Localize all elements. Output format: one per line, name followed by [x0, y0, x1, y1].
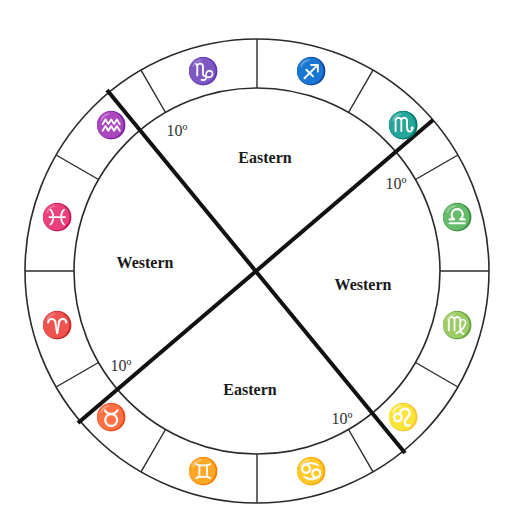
aquarius-icon: ♒ — [95, 110, 127, 140]
region-label-left: Western — [117, 254, 174, 271]
zodiac-diagram: ♐ ♏ ♎ ♍ ♌ ♋ ♊ ♉ ♈ ♓ ♒ ♑ Eastern Eastern … — [0, 0, 508, 521]
sagittarius-icon: ♐ — [295, 56, 327, 86]
degree-label-lower-left: 10º — [111, 357, 132, 374]
gemini-icon: ♊ — [187, 456, 219, 486]
pisces-icon: ♓ — [41, 202, 73, 232]
capricorn-icon: ♑ — [187, 56, 219, 86]
region-label-right: Western — [335, 276, 392, 293]
region-label-top: Eastern — [238, 149, 291, 166]
background — [0, 0, 508, 521]
region-label-bottom: Eastern — [223, 381, 276, 398]
virgo-icon: ♍ — [441, 310, 473, 340]
cancer-icon: ♋ — [295, 456, 327, 486]
degree-label-lower-right: 10º — [332, 410, 353, 427]
libra-icon: ♎ — [441, 202, 473, 232]
degree-label-upper-left: 10º — [167, 122, 188, 139]
aries-icon: ♈ — [41, 310, 73, 340]
taurus-icon: ♉ — [95, 402, 127, 432]
leo-icon: ♌ — [387, 402, 419, 432]
scorpio-icon: ♏ — [387, 110, 419, 140]
degree-label-upper-right: 10º — [386, 175, 407, 192]
